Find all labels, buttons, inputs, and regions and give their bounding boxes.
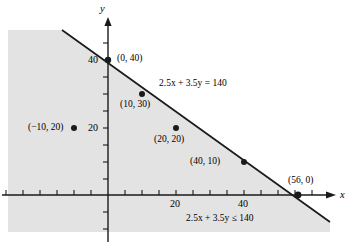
line-equation-label: 2.5x + 3.5y = 140	[159, 79, 227, 89]
point-40-10	[241, 159, 247, 165]
inequality-graph-figure: y x 40 20 20 40 (0, 40) (10, 30) (−10, 2…	[0, 0, 354, 250]
x-axis-label: x	[340, 190, 345, 201]
x-tick-label-40: 40	[238, 199, 248, 209]
point-neg10-20	[71, 125, 77, 131]
point-label-56-0: (56, 0)	[288, 176, 313, 186]
x-axis-arrow	[326, 191, 336, 198]
point-label-40-10: (40, 10)	[190, 157, 220, 167]
point-56-0	[295, 192, 302, 199]
point-0-40	[105, 57, 111, 63]
y-axis-label: y	[100, 4, 105, 15]
point-label-10-30: (10, 30)	[120, 100, 150, 110]
point-10-30	[139, 91, 145, 97]
point-label-0-40: (0, 40)	[117, 54, 142, 64]
x-tick-label-20: 20	[170, 199, 180, 209]
point-label-neg10-20: (−10, 20)	[28, 123, 63, 133]
inequality-label: 2.5x + 3.5y ≤ 140	[186, 214, 254, 224]
y-axis-arrow	[104, 17, 111, 26]
point-label-20-20: (20, 20)	[154, 135, 184, 145]
point-20-20	[173, 125, 179, 131]
y-tick-label-20: 20	[88, 123, 98, 133]
y-tick-label-40: 40	[88, 55, 98, 65]
